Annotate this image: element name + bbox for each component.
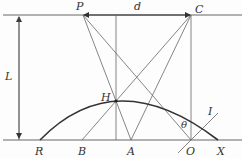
label-C: C [195, 4, 203, 15]
label-H: H [101, 92, 111, 103]
geometry-diagram: P d C L H θ I R B A O X [0, 0, 242, 158]
label-X: X [217, 146, 225, 157]
label-I: I [208, 106, 212, 117]
label-theta: θ [181, 120, 187, 130]
label-L: L [5, 71, 12, 82]
point-H [114, 99, 117, 102]
label-P: P [76, 1, 83, 12]
label-B: B [78, 146, 86, 157]
ray-P-A [83, 15, 131, 140]
label-d: d [134, 1, 141, 12]
label-O: O [186, 146, 195, 157]
label-R: R [35, 146, 43, 157]
diagram-lines [0, 0, 242, 158]
label-A: A [127, 146, 135, 157]
